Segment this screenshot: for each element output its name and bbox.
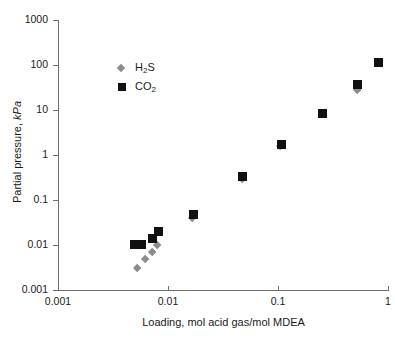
y-axis-title-units: kPa xyxy=(11,101,23,120)
y-tick-label: 0.1 xyxy=(0,194,48,205)
y-tick-mark xyxy=(53,110,58,111)
y-axis-title: Partial pressure, kPa xyxy=(11,72,23,232)
data-point-co2 xyxy=(189,210,198,219)
y-tick-mark xyxy=(53,200,58,201)
legend-label-h2s: H2S xyxy=(135,61,155,75)
y-tick-label: 100 xyxy=(0,59,48,70)
legend-label-co2: CO2 xyxy=(135,80,156,94)
data-point-h2s xyxy=(132,264,141,273)
chart-figure: 0.0010.010.11101001000 0.0010.010.11 Par… xyxy=(0,0,395,340)
y-axis-line xyxy=(58,20,59,291)
chart-legend: H2S CO2 xyxy=(118,58,156,96)
y-tick-mark xyxy=(53,155,58,156)
data-point-co2 xyxy=(238,172,247,181)
x-tick-mark xyxy=(58,286,59,291)
y-tick-label: 0.01 xyxy=(0,239,48,250)
y-tick-label: 0.001 xyxy=(0,284,48,295)
y-tick-mark xyxy=(53,245,58,246)
data-point-co2 xyxy=(137,240,146,249)
data-point-h2s xyxy=(141,255,150,264)
data-point-co2 xyxy=(318,109,327,118)
legend-item-co2: CO2 xyxy=(118,77,156,96)
x-tick-label: 0.001 xyxy=(28,296,88,307)
y-tick-label: 10 xyxy=(0,104,48,115)
data-point-co2 xyxy=(374,58,383,67)
y-tick-mark xyxy=(53,65,58,66)
x-axis-title: Loading, mol acid gas/mol MDEA xyxy=(58,316,389,328)
x-tick-label: 1 xyxy=(358,296,395,307)
y-tick-mark xyxy=(53,20,58,21)
y-tick-label: 1 xyxy=(0,149,48,160)
data-point-h2s xyxy=(148,248,157,257)
square-marker-icon xyxy=(118,83,134,91)
diamond-marker-icon xyxy=(118,65,134,71)
x-tick-mark xyxy=(278,286,279,291)
legend-item-h2s: H2S xyxy=(118,58,156,77)
y-tick-label: 1000 xyxy=(0,14,48,25)
data-point-co2 xyxy=(154,227,163,236)
x-tick-label: 0.1 xyxy=(248,296,308,307)
y-axis-title-text: Partial pressure, xyxy=(11,120,23,203)
data-point-co2 xyxy=(277,140,286,149)
x-tick-label: 0.01 xyxy=(138,296,198,307)
x-tick-mark xyxy=(388,286,389,291)
data-point-co2 xyxy=(353,80,362,89)
x-axis-line xyxy=(58,290,389,291)
x-tick-mark xyxy=(168,286,169,291)
